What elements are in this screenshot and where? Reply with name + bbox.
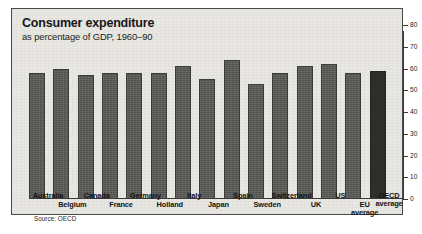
y-tick-10 — [403, 177, 408, 178]
x-axis-labels: AustraliaBelgiumCanadaFranceGermanyHolla… — [23, 192, 415, 218]
y-tick-label-20: 20 — [410, 153, 417, 160]
y-tick-label-80: 80 — [410, 22, 417, 29]
bar-canada — [78, 75, 94, 199]
bar-belgium — [53, 69, 69, 200]
bar-eu-average — [345, 73, 361, 199]
x-label-oecd-average: OECDaverage — [354, 192, 422, 207]
bar-australia — [29, 73, 45, 199]
y-tick-label-30: 30 — [410, 131, 417, 138]
bar-japan — [199, 79, 215, 199]
bar-switzerland — [272, 73, 288, 199]
y-tick-label-60: 60 — [410, 66, 417, 73]
y-tick-80 — [403, 25, 408, 26]
y-tick-40 — [403, 112, 408, 113]
bar-sweden — [248, 84, 264, 199]
y-tick-60 — [403, 69, 408, 70]
y-tick-label-50: 50 — [410, 87, 417, 94]
bar-italy — [175, 66, 191, 199]
bar-uk — [297, 66, 313, 199]
bar-series — [29, 25, 386, 199]
chart-panel: Consumer expenditure as percentage of GD… — [11, 8, 403, 215]
source-note: Source: OECD — [34, 215, 76, 222]
y-axis: 01020304050607080 — [403, 31, 404, 199]
plot-area: 01020304050607080 — [29, 24, 386, 199]
y-tick-30 — [403, 134, 408, 135]
bar-spain — [224, 60, 240, 199]
y-tick-label-70: 70 — [410, 44, 417, 51]
y-tick-label-10: 10 — [410, 174, 417, 181]
bar-holland — [151, 73, 167, 199]
bar-germany — [126, 73, 142, 199]
y-tick-50 — [403, 90, 408, 91]
y-tick-label-40: 40 — [410, 109, 417, 116]
bar-us — [321, 64, 337, 199]
y-tick-20 — [403, 156, 408, 157]
bar-france — [102, 73, 118, 199]
bar-oecd-average — [370, 71, 386, 199]
y-tick-70 — [403, 47, 408, 48]
